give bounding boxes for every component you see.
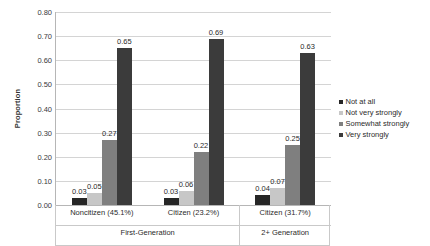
group-row-rule: [56, 225, 239, 226]
bar-value-label: 0.22: [194, 141, 209, 150]
bar-value-label: 0.25: [285, 134, 300, 143]
bar: [270, 188, 285, 205]
bar-value-label: 0.05: [87, 182, 102, 191]
y-axis-tick-label: 0.30: [22, 128, 52, 137]
legend-label: Very strongly: [346, 130, 389, 140]
bar: [87, 193, 102, 205]
bar: [179, 191, 194, 205]
legend-swatch-icon: [339, 111, 343, 115]
bar: [285, 145, 300, 205]
y-axis-title: Proportion: [13, 74, 22, 144]
bar: [300, 53, 315, 205]
chart-legend: Not at allNot very stronglySomewhat stro…: [339, 96, 429, 140]
bar-value-label: 0.63: [300, 42, 315, 51]
bar: [164, 198, 179, 205]
bar-value-label: 0.03: [72, 187, 87, 196]
legend-swatch-icon: [339, 122, 343, 126]
group-label: First-Generation: [121, 228, 175, 237]
group-label: 2+ Generation: [261, 228, 309, 237]
bar-value-label: 0.69: [209, 28, 224, 37]
group-row-rule: [239, 225, 331, 226]
bar: [194, 152, 209, 205]
gridline: [56, 84, 331, 85]
gridline: [56, 12, 331, 13]
y-axis-tick-label: 0.80: [22, 8, 52, 17]
y-axis-tick-label: 0.40: [22, 104, 52, 113]
category-label: Citizen (31.7%): [260, 208, 311, 217]
bar: [72, 198, 87, 205]
bar-value-label: 0.65: [117, 37, 132, 46]
y-axis-tick-label: 0.00: [22, 201, 52, 210]
legend-item: Very strongly: [339, 129, 429, 140]
bar-chart: Proportion 0.800.700.600.500.400.300.200…: [0, 0, 430, 246]
legend-label: Not very strongly: [346, 108, 402, 118]
gridline: [56, 60, 331, 61]
legend-item: Not very strongly: [339, 107, 429, 118]
category-axis: Noncitizen (45.1%)Citizen (23.2%)Citizen…: [55, 205, 330, 246]
legend-swatch-icon: [339, 133, 343, 137]
gridline: [56, 109, 331, 110]
category-label: Noncitizen (45.1%): [70, 208, 133, 217]
bar: [255, 195, 270, 205]
bar: [117, 48, 132, 205]
y-axis-tick-labels: 0.800.700.600.500.400.300.200.100.00: [22, 12, 52, 205]
plot-area: 0.030.030.040.050.060.070.270.220.250.65…: [55, 12, 330, 205]
bar-value-label: 0.07: [270, 177, 285, 186]
bar: [209, 39, 224, 205]
bar: [102, 140, 117, 205]
legend-item: Somewhat strongly: [339, 118, 429, 129]
bar-value-label: 0.27: [102, 129, 117, 138]
bar-value-label: 0.06: [179, 180, 194, 189]
category-label: Citizen (23.2%): [168, 208, 219, 217]
y-axis-tick-label: 0.20: [22, 152, 52, 161]
legend-label: Not at all: [346, 97, 376, 107]
legend-label: Somewhat strongly: [346, 119, 410, 129]
y-axis-tick-label: 0.60: [22, 56, 52, 65]
gridline: [56, 36, 331, 37]
y-axis-tick-label: 0.10: [22, 176, 52, 185]
y-axis-tick-label: 0.50: [22, 80, 52, 89]
y-axis-tick-label: 0.70: [22, 32, 52, 41]
legend-swatch-icon: [339, 100, 343, 104]
bar-value-label: 0.03: [164, 187, 179, 196]
bar-value-label: 0.04: [255, 184, 270, 193]
legend-item: Not at all: [339, 96, 429, 107]
